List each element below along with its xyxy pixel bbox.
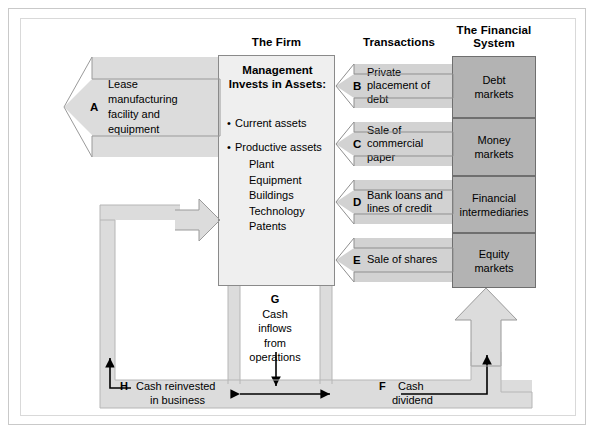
transaction-text-d: Bank loans and lines of credit (367, 180, 453, 224)
market-box-money: Money markets (452, 118, 536, 176)
lease-arrow-text: Lease manufacturing facility and equipme… (108, 57, 218, 157)
transaction-b-line-1: Private (367, 66, 453, 80)
reinvest-line-1: Cash reinvested (136, 379, 246, 393)
cash-inflow-line-1: Cash (215, 307, 335, 322)
firm-asset-list: •Current assets •Productive assets Plant… (227, 116, 336, 235)
market-money-line-2: markets (474, 147, 513, 161)
firm-asset-item-3: Technology (249, 204, 336, 220)
firm-heading: Management Invests in Assets: (219, 63, 336, 91)
market-equity-line-1: Equity (474, 247, 513, 261)
firm-box: Management Invests in Assets: •Current a… (218, 55, 335, 286)
cash-inflow-letter-g: G (215, 292, 335, 307)
firm-bullet-current-assets: •Current assets (227, 116, 336, 131)
firm-asset-item-2: Buildings (249, 188, 336, 204)
market-equity-line-2: markets (474, 261, 513, 275)
firm-heading-line-1: Management (219, 63, 336, 77)
dividend-line-2: dividend (392, 393, 482, 407)
firm-bullet-label-0: Current assets (235, 117, 307, 129)
firm-asset-item-4: Patents (249, 219, 336, 235)
lease-line-4: equipment (108, 122, 178, 137)
firm-productive-asset-items: Plant Equipment Buildings Technology Pat… (227, 157, 336, 235)
transaction-text-e: Sale of shares (367, 238, 453, 282)
firm-list-gap (227, 131, 336, 140)
reinvest-line-2: in business (150, 393, 260, 407)
firm-asset-item-1: Equipment (249, 173, 336, 189)
cash-inflow-label-g: G Cash inflows from operations (215, 292, 335, 365)
market-debt-line-1: Debt (474, 73, 513, 87)
transaction-c-line-2: commercial paper (367, 137, 453, 164)
firm-heading-line-2: Invests in Assets: (219, 77, 336, 91)
transaction-d-line-1: Bank loans and (367, 189, 443, 203)
column-title-firm: The Firm (218, 36, 335, 49)
bullet-dot-icon: • (227, 140, 235, 155)
transaction-letter-d: D (353, 180, 361, 224)
financing-flow-diagram: The Firm Transactions The Financial Syst… (0, 0, 596, 435)
reinvest-letter-h: H (120, 379, 128, 393)
transaction-d-line-2: lines of credit (367, 202, 443, 216)
transaction-text-b: Private placement of debt (367, 64, 453, 108)
transaction-e-line-1: Sale of shares (367, 253, 437, 267)
dividend-line-1: Cash (398, 379, 478, 393)
lease-line-2: manufacturing (108, 92, 178, 107)
market-box-debt: Debt markets (452, 56, 536, 118)
cash-inflow-line-4: operations (215, 350, 335, 365)
market-money-line-1: Money (474, 133, 513, 147)
transaction-letter-e: E (353, 238, 361, 282)
cash-inflow-line-3: from (215, 336, 335, 351)
lease-line-3: facility and (108, 107, 178, 122)
bullet-dot-icon: • (227, 116, 235, 131)
market-debt-line-2: markets (474, 87, 513, 101)
transaction-letter-c: C (353, 122, 361, 166)
cash-inflow-line-2: inflows (215, 321, 335, 336)
lease-line-1: Lease (108, 77, 178, 92)
column-title-financial-system-line2: System (448, 37, 540, 50)
market-intermediaries-line-2: intermediaries (459, 205, 528, 219)
firm-asset-item-0: Plant (249, 157, 336, 173)
column-title-transactions: Transactions (344, 36, 454, 49)
firm-bullet-label-1: Productive assets (235, 141, 322, 153)
transaction-text-c: Sale of commercial paper (367, 122, 453, 166)
dividend-letter-f: F (379, 379, 386, 393)
market-box-equity: Equity markets (452, 233, 536, 288)
market-box-intermediaries: Financial intermediaries (452, 176, 536, 233)
market-intermediaries-line-1: Financial (459, 191, 528, 205)
reinvest-band-vertical-left (100, 205, 115, 380)
transaction-b-line-2: placement of debt (367, 79, 453, 106)
column-title-financial-system-line1: The Financial (448, 24, 540, 37)
transaction-letter-b: B (353, 64, 361, 108)
transaction-c-line-1: Sale of (367, 124, 453, 138)
firm-bullet-productive-assets: •Productive assets (227, 140, 336, 155)
